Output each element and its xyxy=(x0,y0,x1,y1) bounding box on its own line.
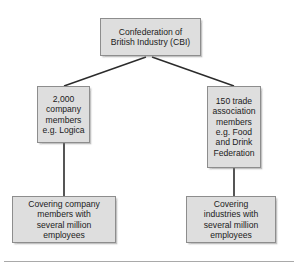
connector-root-to-trade-associations xyxy=(152,57,234,86)
page-divider-rule xyxy=(4,261,294,262)
node-trade-associations-label: 150 trade association members e.g. Food … xyxy=(208,96,260,159)
node-covering-industries-label: Covering industries with several million… xyxy=(187,199,275,241)
node-covering-company-members: Covering company members with several mi… xyxy=(12,196,116,243)
node-covering-company-label: Covering company members with several mi… xyxy=(13,199,115,241)
connector-root-to-company-members xyxy=(64,57,146,86)
node-confederation-of-british-industry: Confederation of British Industry (CBI) xyxy=(100,18,201,56)
node-company-members-label: 2,000 company members e.g. Logica xyxy=(38,94,89,136)
cbi-structure-diagram: Confederation of British Industry (CBI) … xyxy=(0,0,298,267)
node-company-members: 2,000 company members e.g. Logica xyxy=(37,86,90,143)
node-trade-association-members: 150 trade association members e.g. Food … xyxy=(207,86,261,168)
node-root-label: Confederation of British Industry (CBI) xyxy=(101,27,200,48)
node-covering-industries: Covering industries with several million… xyxy=(186,196,276,243)
